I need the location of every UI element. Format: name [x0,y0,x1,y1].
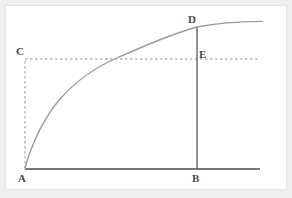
vertex-label-a: A [18,173,26,184]
concave-curve [25,21,262,168]
diagram-svg [0,0,292,198]
vertex-label-b: B [192,173,199,184]
vertex-label-e: E [199,49,206,60]
vertex-label-c: C [16,46,24,57]
vertex-label-d: D [188,14,196,25]
figure-frame: A B C D E [0,0,292,198]
